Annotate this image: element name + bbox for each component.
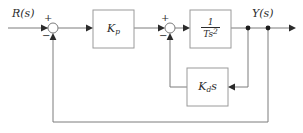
- arrowhead-into-kds: [228, 84, 235, 91]
- arrowhead-outer-into-sum1: [50, 33, 57, 40]
- output-signal-text: Y(s): [252, 7, 274, 20]
- sum2-minus-glyph: −: [159, 30, 167, 41]
- block-plant-denominator: Ts2: [201, 28, 220, 40]
- output-signal-label: Y(s): [252, 8, 274, 19]
- sum1-minus-glyph: −: [42, 30, 50, 41]
- sum1-minus-sign: −: [42, 31, 50, 41]
- input-signal-label: R(s): [12, 8, 35, 19]
- block-plant-fraction: 1 Ts2: [201, 18, 220, 40]
- wire-kds-to-sum2: [170, 35, 187, 87]
- block-kds-label-tail: s: [211, 80, 217, 93]
- input-signal-text: R(s): [12, 7, 35, 20]
- arrowhead-into-plant: [183, 25, 190, 32]
- block-kds-label: Kds: [187, 68, 228, 106]
- sum2-minus-sign: −: [159, 31, 167, 41]
- arrowhead-inner-into-sum2: [167, 33, 174, 40]
- arrowhead-into-kp: [86, 25, 93, 32]
- sum1-plus-sign: +: [44, 13, 52, 23]
- block-kp-label-main: K: [107, 22, 115, 35]
- block-kp-label-sub: p: [115, 27, 120, 36]
- arrowhead-output-terminal: [289, 25, 296, 32]
- block-diagram-canvas: R(s) Y(s) + − + − Kp 1 Ts2 Kds: [0, 0, 303, 133]
- wire-outer-feedback: [53, 28, 268, 122]
- wire-output-tap-to-kds: [230, 28, 248, 87]
- junction-dot-inner-tap: [246, 26, 251, 31]
- block-plant-denominator-main: Ts: [203, 30, 213, 40]
- block-plant-denominator-exponent: 2: [213, 27, 218, 36]
- block-kp-label: Kp: [93, 10, 134, 48]
- block-plant-label: 1 Ts2: [190, 10, 231, 48]
- sum2-plus-sign: +: [161, 13, 169, 23]
- sum1-plus-glyph: +: [44, 12, 52, 23]
- junction-dot-outer-tap: [266, 26, 271, 31]
- sum2-plus-glyph: +: [161, 12, 169, 23]
